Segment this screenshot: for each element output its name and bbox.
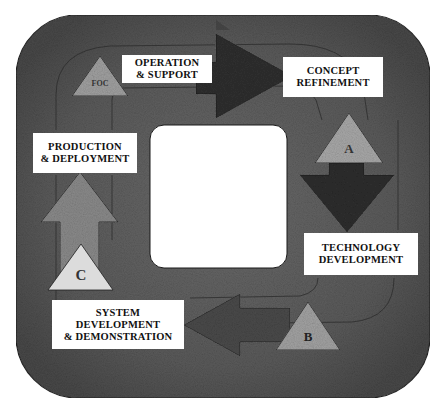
label-line: & DEMONSTRATION (64, 331, 173, 343)
label-line: OPERATION (135, 57, 200, 69)
label-line: DEVELOPMENT (76, 319, 160, 331)
phase-label-operation-support: OPERATION & SUPPORT (122, 55, 212, 83)
label-line: PRODUCTION (48, 141, 122, 153)
milestone-label-b: B (298, 329, 318, 345)
label-line: DEVELOPMENT (319, 254, 403, 266)
label-line: & SUPPORT (136, 69, 198, 81)
label-line: REFINEMENT (296, 77, 369, 89)
phase-label-technology-development: TECHNOLOGY DEVELOPMENT (304, 233, 418, 275)
lifecycle-diagram: OPERATION & SUPPORT CONCEPT REFINEMENT T… (0, 0, 442, 410)
milestone-label-c: C (71, 267, 91, 284)
center-panel (150, 125, 287, 268)
label-line: & DEPLOYMENT (40, 153, 129, 165)
phase-label-concept-refinement: CONCEPT REFINEMENT (283, 57, 383, 97)
label-line: TECHNOLOGY (322, 242, 400, 254)
label-line: CONCEPT (307, 65, 360, 77)
milestone-label-a: A (339, 141, 359, 157)
phase-label-system-development-demonstration: SYSTEM DEVELOPMENT & DEMONSTRATION (52, 300, 184, 349)
label-line: SYSTEM (96, 307, 140, 319)
milestone-label-foc: FOC (86, 79, 114, 88)
phase-label-production-deployment: PRODUCTION & DEPLOYMENT (33, 133, 137, 173)
